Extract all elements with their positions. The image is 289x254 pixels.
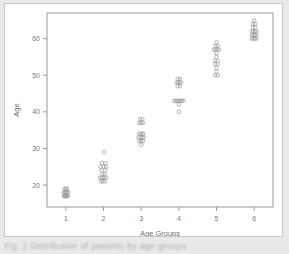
x-tick-label: 6 (252, 215, 256, 222)
data-point (215, 66, 219, 70)
data-point (140, 117, 144, 121)
x-axis-title: Age Groups (140, 229, 180, 236)
y-axis-title: Age (12, 103, 21, 116)
data-point (253, 26, 257, 30)
y-tick-label: 50 (32, 72, 40, 79)
figure-caption-strip: Fig. 2 Distribution of patients by age g… (4, 240, 283, 253)
data-point (104, 165, 108, 169)
screenshot-page: 2030405060 123456 Age Age Groups Fig. 2 … (0, 0, 289, 254)
data-point (103, 172, 107, 176)
x-tick-label: 1 (64, 215, 68, 222)
data-point (216, 73, 220, 77)
x-tick-label: 5 (215, 215, 219, 222)
data-point (139, 143, 143, 147)
data-point (177, 110, 181, 114)
figure-caption: Fig. 2 Distribution of patients by age g… (4, 240, 283, 253)
plot-frame-group (47, 13, 273, 207)
y-tick-label: 60 (32, 35, 40, 42)
data-point (216, 62, 220, 66)
data-point (253, 22, 257, 26)
x-tick-label: 3 (139, 215, 143, 222)
y-tick-label: 20 (32, 182, 40, 189)
y-tick-label: 30 (32, 145, 40, 152)
data-point (215, 51, 219, 55)
x-tick-label: 2 (102, 215, 106, 222)
x-tick-label: 4 (177, 215, 181, 222)
data-point (103, 180, 107, 184)
data-points-group (62, 19, 258, 198)
x-axis-ticks-group: 123456 (64, 207, 256, 222)
data-point (216, 59, 220, 63)
data-point (100, 169, 104, 173)
figure-card: 2030405060 123456 Age Age Groups (4, 3, 283, 237)
data-point (215, 55, 219, 59)
scatter-plot: 2030405060 123456 Age Age Groups (5, 4, 282, 236)
plot-frame (47, 13, 273, 207)
data-point (215, 40, 219, 44)
y-tick-label: 40 (32, 108, 40, 115)
data-point (216, 44, 220, 48)
data-point (178, 84, 182, 88)
chart-canvas: 2030405060 123456 Age Age Groups (5, 4, 282, 236)
data-point (215, 70, 219, 74)
data-point (104, 169, 108, 173)
data-point (102, 150, 106, 154)
data-point (177, 103, 181, 107)
data-point (178, 77, 182, 81)
data-point (252, 19, 256, 23)
y-axis-ticks-group: 2030405060 (32, 35, 47, 188)
